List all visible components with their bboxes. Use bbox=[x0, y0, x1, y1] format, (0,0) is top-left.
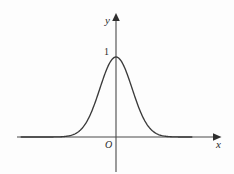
figure-container: y x O 1 bbox=[0, 0, 234, 174]
origin-label: O bbox=[105, 140, 112, 150]
y-axis-arrowhead bbox=[112, 13, 120, 21]
plot-svg bbox=[0, 0, 234, 174]
axes-group bbox=[17, 13, 222, 172]
y-axis-label: y bbox=[105, 15, 110, 26]
y-tick-label-one: 1 bbox=[104, 47, 109, 57]
bell-curve-path bbox=[21, 57, 192, 137]
x-axis-label: x bbox=[216, 139, 221, 150]
curve-group bbox=[21, 57, 192, 137]
